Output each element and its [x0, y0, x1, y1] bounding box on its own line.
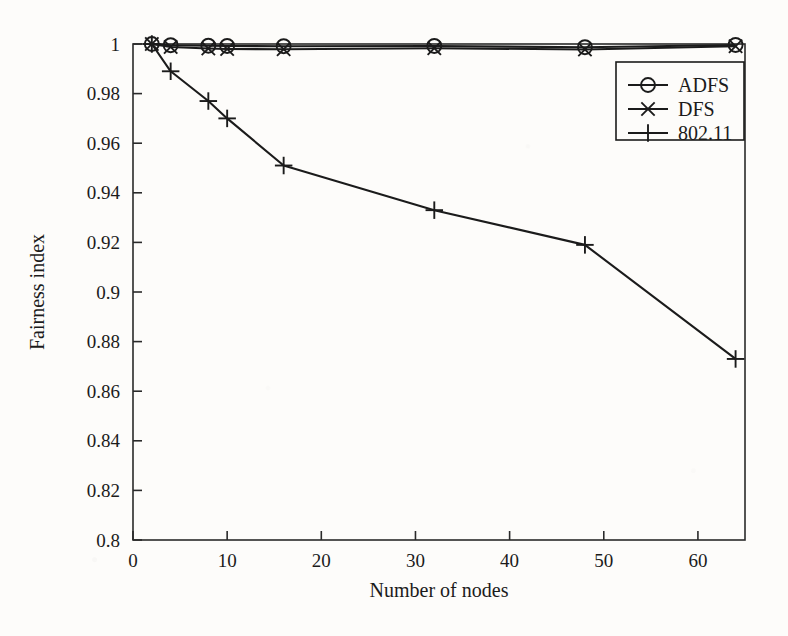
y-axis-title: Fairness index [26, 234, 48, 350]
fairness-index-line-chart: 0.80.820.840.860.880.90.920.940.960.981 … [0, 0, 788, 636]
x-tick-label: 30 [406, 550, 425, 571]
y-tick-label: 0.92 [87, 232, 120, 253]
x-tick-label: 0 [128, 550, 138, 571]
y-tick-label: 0.84 [87, 430, 121, 451]
x-tick-label: 60 [688, 550, 707, 571]
y-tick-label: 0.88 [87, 331, 120, 352]
x-tick-label: 10 [218, 550, 237, 571]
y-tick-label: 1 [111, 34, 121, 55]
legend-label: ADFS [678, 74, 729, 96]
x-tick-label: 50 [594, 550, 613, 571]
y-tick-label: 0.8 [96, 530, 120, 551]
chart-legend: ADFSDFS802.11 [616, 62, 744, 144]
y-tick-label: 0.94 [87, 182, 121, 203]
legend-label: 802.11 [678, 122, 732, 144]
legend-label: DFS [678, 98, 715, 120]
x-tick-label: 20 [312, 550, 331, 571]
chart-figure: 0.80.820.840.860.880.90.920.940.960.981 … [0, 0, 788, 636]
x-axis-title: Number of nodes [370, 579, 509, 601]
y-tick-label: 0.98 [87, 83, 120, 104]
y-tick-label: 0.9 [96, 282, 120, 303]
y-tick-label: 0.96 [87, 133, 120, 154]
y-tick-label: 0.86 [87, 381, 120, 402]
x-tick-label: 40 [500, 550, 519, 571]
y-tick-label: 0.82 [87, 480, 120, 501]
